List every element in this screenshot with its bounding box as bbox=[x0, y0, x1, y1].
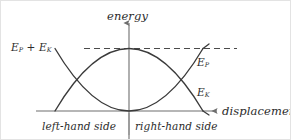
energy-displacement-figure: energy displacement EP + EK EP EK left-h… bbox=[0, 0, 291, 140]
left-region-label: left-hand side bbox=[42, 121, 116, 132]
total-energy-symbol-p: E bbox=[11, 41, 19, 53]
kinetic-curve-leader bbox=[203, 111, 209, 115]
right-region-label: right-hand side bbox=[135, 121, 218, 132]
potential-energy-curve-label: EP bbox=[197, 57, 209, 69]
total-energy-symbol-k: E bbox=[39, 41, 47, 53]
total-energy-label: EP + EK bbox=[11, 42, 52, 54]
ek-symbol: E bbox=[197, 86, 205, 98]
total-energy-subscript-k: K bbox=[47, 46, 52, 54]
total-energy-plus: + bbox=[23, 41, 39, 53]
potential-curve-leader bbox=[203, 44, 209, 49]
ep-symbol: E bbox=[197, 56, 205, 68]
y-axis-label: energy bbox=[107, 11, 148, 23]
kinetic-energy-curve-label: EK bbox=[197, 87, 210, 99]
x-axis-label: displacement bbox=[222, 106, 291, 118]
ek-subscript: K bbox=[205, 91, 210, 99]
ep-subscript: P bbox=[205, 61, 209, 69]
